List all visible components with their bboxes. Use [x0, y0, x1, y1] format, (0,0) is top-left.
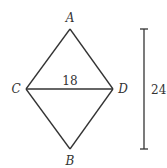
rhombus-diagram: A B C D 18 24: [0, 0, 167, 168]
dimension-length-label: 24: [151, 83, 167, 97]
edge-CB: [26, 89, 70, 149]
edge-DB: [70, 89, 113, 149]
vertex-label-C: C: [11, 82, 20, 96]
vertex-label-D: D: [117, 82, 128, 96]
vertex-label-A: A: [65, 11, 75, 25]
diagonal-length-label: 18: [62, 74, 77, 88]
vertex-label-B: B: [65, 154, 75, 168]
